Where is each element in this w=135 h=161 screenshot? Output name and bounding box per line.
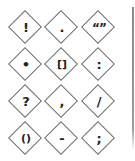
brackets-icon: []: [44, 47, 80, 83]
slash-icon: /: [81, 84, 117, 120]
tile-semicolon[interactable]: ;: [81, 121, 117, 157]
tile-comma[interactable]: ,: [44, 84, 80, 120]
parentheses-icon: (): [8, 121, 44, 157]
exclamation-mark-icon: !: [8, 10, 44, 46]
tile-colon[interactable]: :: [81, 47, 117, 83]
semicolon-icon: ;: [81, 121, 117, 157]
vertical-divider: [132, 7, 134, 150]
tile-exclamation-mark[interactable]: !: [8, 10, 44, 46]
period-icon: .: [44, 10, 80, 46]
tile-quotation-marks[interactable]: “”: [81, 10, 117, 46]
bullet-icon: •: [8, 47, 44, 83]
colon-icon: :: [81, 47, 117, 83]
tile-slash[interactable]: /: [81, 84, 117, 120]
comma-icon: ,: [44, 84, 80, 120]
tile-brackets[interactable]: []: [44, 47, 80, 83]
tile-bullet[interactable]: •: [8, 47, 44, 83]
tile-hyphen[interactable]: -: [44, 121, 80, 157]
tile-question-mark[interactable]: ?: [8, 84, 44, 120]
punctuation-palette: ! . “” • [] : ? , / () -: [0, 0, 125, 161]
tile-period[interactable]: .: [44, 10, 80, 46]
quotation-marks-icon: “”: [81, 10, 117, 46]
hyphen-icon: -: [44, 121, 80, 157]
tile-parentheses[interactable]: (): [8, 121, 44, 157]
question-mark-icon: ?: [8, 84, 44, 120]
